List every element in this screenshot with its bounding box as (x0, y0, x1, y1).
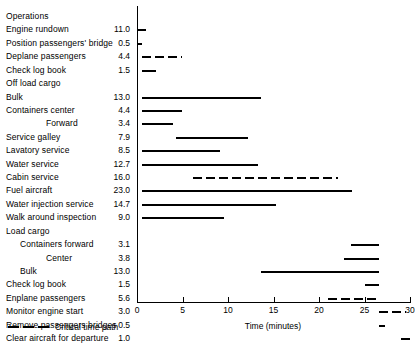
x-tick (410, 297, 411, 302)
task-label: Check log book (6, 66, 66, 75)
task-label: Check log book (6, 280, 66, 289)
gantt-bar (142, 123, 173, 125)
gantt-bar (351, 244, 379, 246)
x-axis-title: Time (minutes) (213, 322, 333, 331)
task-label: Cabin service (6, 173, 59, 182)
task-duration-value: 1.0 (96, 334, 130, 343)
x-tick (183, 297, 184, 302)
gantt-bar-critical (137, 29, 146, 31)
gantt-bar (142, 164, 258, 166)
gantt-bar (261, 271, 379, 273)
x-tick (274, 297, 275, 302)
task-label: Enplane passengers (6, 294, 85, 303)
task-label: Bulk (20, 267, 37, 276)
x-tick (137, 297, 138, 302)
task-label: Walk around inspection (6, 213, 96, 222)
task-duration-value: 3.8 (96, 254, 130, 263)
gantt-bar (142, 204, 276, 206)
legend-dashed-line-icon (8, 326, 50, 328)
x-tick (365, 297, 366, 302)
task-duration-value: 7.9 (96, 133, 130, 142)
task-duration-value: 4.4 (96, 52, 130, 61)
task-label: Fuel aircraft (6, 186, 52, 195)
task-duration-value: 3.1 (96, 240, 130, 249)
x-tick (319, 297, 320, 302)
task-label: Deplane passengers (6, 52, 86, 61)
task-duration-value: 0.5 (96, 39, 130, 48)
task-label: Center (46, 254, 72, 263)
gantt-bar (142, 190, 351, 192)
task-label: Service galley (6, 133, 60, 142)
task-duration-value: 14.7 (96, 200, 130, 209)
task-label: Forward (46, 119, 78, 128)
gantt-bar (176, 137, 248, 139)
gantt-bar (142, 150, 219, 152)
legend-label: Critical time path (55, 322, 118, 332)
task-label: Clear aircraft for departure (6, 334, 108, 343)
task-label: Monitor engine start (6, 307, 83, 316)
x-tick-label: 25 (355, 306, 375, 315)
task-duration-value: 9.0 (96, 213, 130, 222)
task-duration-value: 1.5 (96, 66, 130, 75)
gantt-bar-critical (328, 298, 379, 300)
x-tick (228, 297, 229, 302)
y-axis-line (137, 6, 138, 302)
task-duration-value: 4.4 (96, 106, 130, 115)
x-tick-label: 0 (127, 306, 147, 315)
task-label: Engine rundown (6, 25, 69, 34)
task-duration-value: 5.6 (96, 294, 130, 303)
gantt-bar (142, 217, 224, 219)
task-duration-value: 11.0 (96, 25, 130, 34)
gantt-bar (401, 338, 410, 340)
task-label: Load cargo (6, 227, 50, 236)
task-label: Off load cargo (6, 79, 61, 88)
task-duration-value: 3.4 (96, 119, 130, 128)
x-tick-label: 20 (309, 306, 329, 315)
task-duration-value: 16.0 (96, 173, 130, 182)
task-duration-value: 13.0 (96, 267, 130, 276)
gantt-bar (142, 70, 156, 72)
x-axis-line (137, 302, 411, 303)
gantt-bar (344, 258, 379, 260)
column-header-operations: Operations (6, 12, 49, 21)
x-tick-label: 30 (400, 306, 420, 315)
task-label: Containers center (6, 106, 75, 115)
task-duration-value: 3.0 (96, 307, 130, 316)
task-label: Water service (6, 160, 59, 169)
task-duration-value: 12.7 (96, 160, 130, 169)
task-label: Containers forward (20, 240, 94, 249)
task-label: Lavatory service (6, 146, 70, 155)
gantt-bar (365, 284, 379, 286)
task-duration-value: 8.5 (96, 146, 130, 155)
gantt-bar (379, 325, 384, 327)
task-label: Bulk (6, 93, 23, 102)
task-duration-value: 13.0 (96, 93, 130, 102)
gantt-bar (142, 97, 260, 99)
task-label: Water injection service (6, 200, 94, 209)
gantt-bar-critical (142, 56, 182, 58)
gantt-bar (142, 110, 182, 112)
task-duration-value: 23.0 (96, 186, 130, 195)
gantt-bar-critical (193, 177, 339, 179)
x-tick-label: 10 (218, 306, 238, 315)
x-tick-label: 5 (173, 306, 193, 315)
x-tick-label: 15 (264, 306, 284, 315)
task-duration-value: 1.5 (96, 280, 130, 289)
